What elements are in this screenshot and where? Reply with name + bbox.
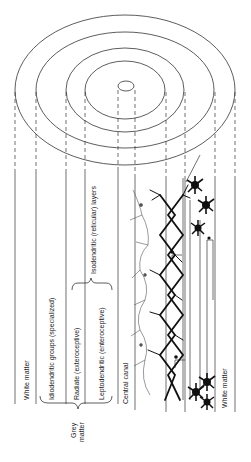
concentric-rings <box>15 15 235 165</box>
label-isodendritic: Isodendritic (reticular) layers <box>90 186 98 274</box>
spinal-cord-diagram: White matter Idiodendritic groups (speci… <box>0 0 251 462</box>
label-white-matter-right: White matter <box>221 368 228 408</box>
central-canal-ring <box>118 81 134 91</box>
bushy-neuron <box>187 176 203 194</box>
isodendritic-neurons <box>148 185 190 400</box>
leptodendritic-fibers <box>130 190 150 395</box>
label-white-matter-left: White matter <box>23 360 30 400</box>
label-grey-matter-1: Grey <box>70 422 78 438</box>
label-radiate: Radiate (exteroceptive) <box>73 328 81 400</box>
label-central-canal: Central canal <box>122 362 129 404</box>
idiodendritic-neurons <box>170 176 215 410</box>
label-idiodendritic: Idiodendritic groups (specialized) <box>48 298 56 400</box>
label-leptodendritic: Leptodendritic (enteroceptive) <box>98 307 106 400</box>
label-grey-matter-2: matter <box>78 421 85 442</box>
isodendritic-brace <box>72 278 112 290</box>
